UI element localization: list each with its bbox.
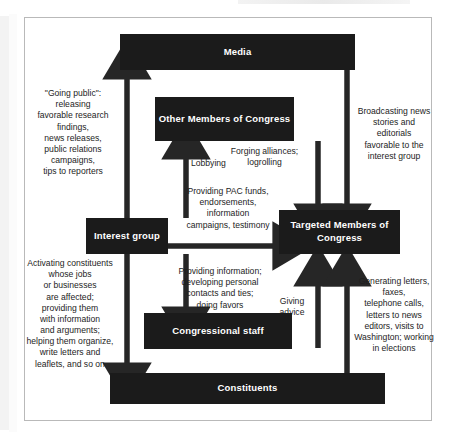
node-constituents[interactable]: Constituents xyxy=(110,373,385,404)
annotation-providing-pac-funds: Providing PAC funds, endorsements, infor… xyxy=(177,186,279,231)
annotation-generating-letters: Generating letters, faxes, telephone cal… xyxy=(354,276,434,354)
figure-frame: Media Other Members of Congress Interest… xyxy=(24,17,432,421)
node-other-members-of-congress[interactable]: Other Members of Congress xyxy=(155,97,294,141)
node-interest-group-label: Interest group xyxy=(94,230,160,243)
node-targeted-members-of-congress[interactable]: Targeted Members of Congress xyxy=(279,210,400,254)
node-media[interactable]: Media xyxy=(120,34,355,70)
node-targeted-members-label: Targeted Members of Congress xyxy=(279,219,400,245)
annotation-forging-alliances: Forging alliances; logrolling xyxy=(217,146,312,168)
node-other-members-label: Other Members of Congress xyxy=(159,113,291,126)
annotation-going-public: "Going public": releasing favorable rese… xyxy=(27,88,119,177)
figure-canvas: Media Other Members of Congress Interest… xyxy=(25,18,431,420)
node-interest-group[interactable]: Interest group xyxy=(86,218,168,254)
node-congressional-staff[interactable]: Congressional staff xyxy=(144,313,292,349)
node-constituents-label: Constituents xyxy=(218,382,278,395)
annotation-broadcasting: Broadcasting news stories and editorials… xyxy=(355,106,433,162)
cropped-header-text xyxy=(238,0,410,4)
annotation-activating-constituents: Activating constituents whose jobs or bu… xyxy=(16,258,124,370)
annotation-giving-advice: Giving advice xyxy=(271,296,313,318)
node-media-label: Media xyxy=(224,46,252,59)
node-congressional-staff-label: Congressional staff xyxy=(172,325,264,338)
annotation-providing-information: Providing information; developing person… xyxy=(165,266,275,311)
